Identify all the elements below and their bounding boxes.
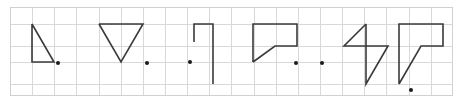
grid-canvas xyxy=(0,0,464,106)
right-triangle xyxy=(32,24,54,62)
speech-bubble-quad xyxy=(253,24,297,62)
marker-dot-right-of-bubble xyxy=(294,61,298,65)
flag-with-stem xyxy=(194,24,213,84)
dot-layer xyxy=(56,60,413,92)
marker-dot-below-tall-bubble xyxy=(409,88,413,92)
shape-layer xyxy=(32,24,443,84)
tall-speech-bubble-quad xyxy=(399,24,443,84)
marker-dot-left-of-zigzag xyxy=(320,61,324,65)
marker-dot-right-of-triangle xyxy=(56,61,60,65)
zigzag-bowtie xyxy=(344,24,388,84)
shape-grid-figure xyxy=(0,0,464,106)
marker-dot-left-of-flag xyxy=(188,60,192,64)
grid-vertical-lines xyxy=(11,7,453,95)
marker-dot-right-of-down-triangle xyxy=(145,61,149,65)
